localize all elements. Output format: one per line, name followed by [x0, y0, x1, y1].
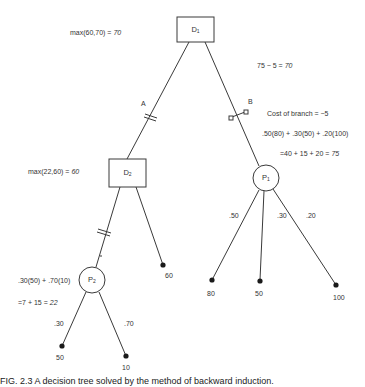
p1-branch-50 [212, 190, 259, 280]
d1-value-annotation: max(60,70) = 70 [70, 29, 121, 37]
branch-b-label: B [248, 98, 253, 106]
node-p1-label: P1 [253, 174, 279, 183]
p2-ev-formula: .30(50) + .70(10) [18, 277, 70, 285]
p2-ev-result: =7 + 15 = 22 [18, 299, 58, 307]
cost-marker-right [244, 110, 248, 114]
terminal-60 [160, 262, 165, 267]
p1-prob-1: .50 [229, 212, 239, 220]
p1-prob-2: .30 [277, 212, 287, 220]
p2-branch-70 [99, 292, 126, 356]
payoff-80: 80 [207, 290, 215, 298]
branch-a-edge [127, 42, 189, 159]
p2-branch-30 [62, 292, 86, 346]
terminal-50-p1 [257, 278, 262, 283]
p1-prob-3: .20 [306, 212, 316, 220]
p1-ev-result: =40 + 15 + 20 = 75 [280, 150, 339, 158]
p1-branch-30 [260, 191, 264, 280]
payoff-50-p2: 50 [56, 354, 64, 362]
payoff-100: 100 [333, 294, 345, 302]
p1-branch-20 [273, 189, 336, 285]
payoff-10: 10 [122, 364, 130, 372]
d2-to-60-edge [136, 187, 163, 265]
payoff-60: 60 [165, 272, 173, 280]
branch-b-value-annotation: 75 − 5 = 70 [257, 62, 292, 70]
p2-prob-1: .30 [54, 320, 64, 328]
p1-ev-formula: .50(80) + .30(50) + .20(100) [262, 130, 348, 138]
p2-prob-2: .70 [124, 320, 134, 328]
dot-mark [100, 255, 102, 257]
terminal-80 [209, 277, 214, 282]
node-p2-label: P2 [79, 276, 105, 285]
terminal-50-p2 [59, 343, 64, 348]
terminal-10 [123, 353, 128, 358]
tree-edges [0, 0, 365, 387]
d2-to-p2-edge [96, 187, 120, 267]
node-d1-label: D1 [177, 26, 214, 35]
decision-tree-diagram: D1 D2 P1 P2 max(60,70) = 70 75 − 5 = 70 … [0, 0, 365, 387]
branch-b-cost-annotation: Cost of branch = −5 [267, 110, 328, 118]
payoff-50-p1: 50 [255, 290, 263, 298]
cost-marker-left [229, 116, 233, 120]
figure-caption: FIG. 2.3 A decision tree solved by the m… [0, 376, 274, 387]
prune-mark-a1 [144, 117, 156, 121]
cost-marker-bar [232, 112, 245, 117]
branch-a-label: A [141, 100, 146, 108]
terminal-100 [333, 282, 338, 287]
d2-value-annotation: max(22,60) = 60 [28, 168, 79, 176]
node-d2-label: D2 [109, 169, 146, 178]
